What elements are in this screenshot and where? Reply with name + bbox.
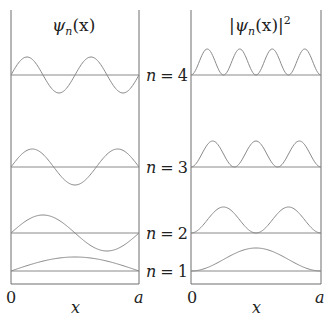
left-x-max-label: a [134, 288, 144, 307]
right-baselines [191, 75, 321, 271]
level-label-n3: n=3 [146, 158, 188, 177]
prob-curve-n2 [191, 207, 321, 233]
right-x-axis-label: x [252, 298, 261, 317]
wavefunction-curves [11, 57, 139, 271]
right-x-max-label: a [315, 288, 325, 307]
right-panel-title: |ψn(x)|2 [229, 14, 291, 38]
left-box-frame [11, 10, 139, 284]
level-label-n1: n=1 [146, 262, 188, 281]
psi-curve-n1 [11, 257, 139, 271]
left-x-axis-label: x [71, 298, 80, 317]
prob-curve-n3 [191, 141, 321, 167]
right-panel [191, 10, 321, 284]
probability-density-curves [191, 49, 321, 271]
prob-curve-n4 [191, 49, 321, 75]
level-label-n4: n=4 [146, 66, 188, 85]
right-x-min-label: 0 [187, 288, 197, 307]
left-panel [11, 10, 139, 284]
level-label-n2: n=2 [146, 224, 188, 243]
left-x-min-label: 0 [6, 288, 16, 307]
particle-in-box-diagram: ψn(x) |ψn(x)|2 n=4 n=3 n=2 n=1 0 a x 0 a… [0, 0, 332, 319]
left-panel-title: ψn(x) [52, 15, 95, 38]
prob-curve-n1 [191, 248, 321, 271]
left-baselines [11, 75, 139, 271]
